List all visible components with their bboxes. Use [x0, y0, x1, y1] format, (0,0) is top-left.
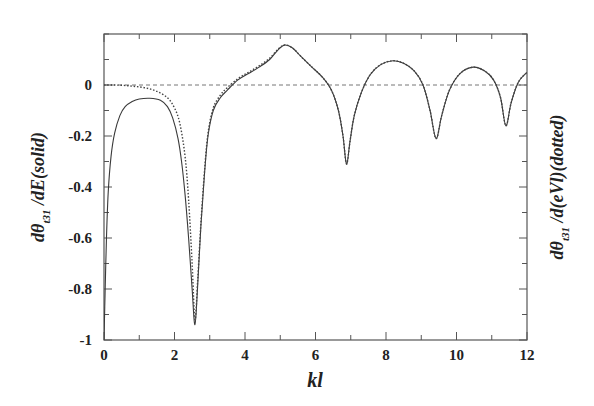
- y-tick-label: -0.8: [68, 281, 92, 297]
- svg-text:dθt31 /dE(solid): dθt31 /dE(solid): [28, 132, 52, 242]
- y-left-subscript: t31: [40, 210, 52, 224]
- svg-text:dθt31 /d(eVl)(dotted): dθt31 /d(eVl)(dotted): [547, 115, 571, 260]
- x-axis-title: kl: [307, 369, 323, 391]
- series-dotted: [104, 45, 527, 320]
- x-tick-label: 2: [171, 347, 179, 363]
- x-tick-label: 10: [449, 347, 464, 363]
- y-tick-label: -0.4: [68, 179, 92, 195]
- y-left-rest: /dE(solid): [28, 132, 49, 210]
- axis-ticks: [104, 34, 527, 340]
- series-solid: [104, 45, 527, 340]
- plot-border: [104, 34, 527, 340]
- x-tick-label: 6: [312, 347, 320, 363]
- y-tick-label: -1: [80, 332, 93, 348]
- plot-frame: [104, 34, 527, 340]
- x-tick-label: 8: [382, 347, 390, 363]
- y-tick-label: -0.2: [68, 128, 92, 144]
- data-series: [104, 45, 527, 340]
- y-axis-title-left: dθt31 /dE(solid): [28, 132, 52, 242]
- x-tick-label: 4: [241, 347, 249, 363]
- x-tick-label: 12: [520, 347, 535, 363]
- axis-tick-labels: 024681012-1-0.8-0.6-0.4-0.20: [68, 77, 534, 363]
- y-left-main: dθ: [28, 223, 48, 242]
- y-right-main: dθ: [547, 240, 567, 259]
- y-right-rest: /d(eVl)(dotted): [547, 115, 568, 227]
- y-axis-title-right: dθt31 /d(eVl)(dotted): [547, 115, 571, 260]
- y-tick-label: 0: [85, 77, 93, 93]
- line-chart: 024681012-1-0.8-0.6-0.4-0.20 kl dθt31 /d…: [0, 0, 594, 406]
- y-right-subscript: t31: [559, 227, 571, 241]
- y-tick-label: -0.6: [68, 230, 92, 246]
- x-tick-label: 0: [100, 347, 108, 363]
